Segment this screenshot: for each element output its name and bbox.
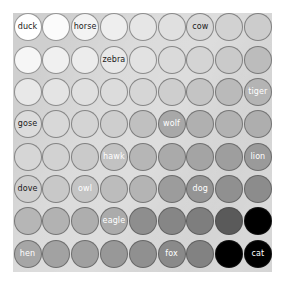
grid-circle-r1-c5	[129, 13, 157, 41]
grid-circle-r8-c8	[215, 240, 243, 268]
grid-circle-cat: cat	[244, 240, 272, 268]
grid-circle-dog: dog	[186, 175, 214, 203]
grid-circle-r5-c1	[14, 143, 42, 171]
grid-circle-zebra: zebra	[100, 46, 128, 74]
circle-label-fox: fox	[165, 250, 178, 258]
grid-circle-r2-c8	[215, 46, 243, 74]
grid-circle-tiger: tiger	[244, 78, 272, 106]
grid-circle-r3-c1	[14, 78, 42, 106]
grid-circle-r6-c9	[244, 175, 272, 203]
circle-label-dog: dog	[193, 185, 208, 193]
grid-circle-r3-c8	[215, 78, 243, 106]
circle-label-hawk: hawk	[103, 153, 125, 161]
grid-circle-r4-c9	[244, 110, 272, 138]
grid-circle-r4-c2	[42, 110, 70, 138]
grid-circle-r3-c3	[71, 78, 99, 106]
grid-circle-r5-c3	[71, 143, 99, 171]
grid-circle-r5-c5	[129, 143, 157, 171]
grid-circle-lion: lion	[244, 143, 272, 171]
grid-circle-r8-c7	[186, 240, 214, 268]
grid-circle-r7-c8	[215, 207, 243, 235]
grid-circle-hawk: hawk	[100, 143, 128, 171]
grid-circle-dove: dove	[14, 175, 42, 203]
grid-circle-r3-c4	[100, 78, 128, 106]
circle-label-gose: gose	[18, 120, 37, 128]
grid-circle-wolf: wolf	[158, 110, 186, 138]
grid-circle-r1-c4	[100, 13, 128, 41]
grid-circle-r3-c2	[42, 78, 70, 106]
grid-circle-r1-c8	[215, 13, 243, 41]
grid-circle-r8-c5	[129, 240, 157, 268]
circle-label-zebra: zebra	[102, 56, 125, 64]
grid-circle-r7-c6	[158, 207, 186, 235]
grid-circle-r1-c9	[244, 13, 272, 41]
circle-label-cow: cow	[192, 23, 208, 31]
grid-circle-r8-c4	[100, 240, 128, 268]
grid-circle-r3-c7	[186, 78, 214, 106]
circle-label-horse: horse	[74, 23, 97, 31]
grid-circle-r6-c4	[100, 175, 128, 203]
grid-circle-r8-c2	[42, 240, 70, 268]
grid-circle-r4-c5	[129, 110, 157, 138]
grid-circle-r2-c7	[186, 46, 214, 74]
figure-canvas: duckhorsecowzebratigergosewolfhawkliondo…	[0, 0, 287, 283]
grid-circle-r8-c3	[71, 240, 99, 268]
circle-label-eagle: eagle	[103, 217, 126, 225]
circle-label-hen: hen	[20, 250, 35, 258]
grid-circle-duck: duck	[14, 13, 42, 41]
grid-circle-fox: fox	[158, 240, 186, 268]
grid-circle-r2-c2	[42, 46, 70, 74]
grid-circle-r5-c7	[186, 143, 214, 171]
grid-circle-r5-c2	[42, 143, 70, 171]
grid-circle-r7-c9	[244, 207, 272, 235]
grid-circle-r2-c5	[129, 46, 157, 74]
grid-circle-r6-c6	[158, 175, 186, 203]
grid-circle-eagle: eagle	[100, 207, 128, 235]
circle-label-cat: cat	[252, 250, 265, 258]
grid-circle-r3-c5	[129, 78, 157, 106]
circle-label-lion: lion	[250, 153, 265, 161]
grid-circle-r7-c2	[42, 207, 70, 235]
grid-circle-r2-c3	[71, 46, 99, 74]
grid-circle-horse: horse	[71, 13, 99, 41]
grid-circle-r7-c1	[14, 207, 42, 235]
grid-circle-r4-c7	[186, 110, 214, 138]
grid-circle-r7-c3	[71, 207, 99, 235]
grid-circle-r6-c2	[42, 175, 70, 203]
grid-circle-r6-c8	[215, 175, 243, 203]
grid-circle-r1-c2	[42, 13, 70, 41]
plot-panel: duckhorsecowzebratigergosewolfhawkliondo…	[13, 13, 272, 272]
circle-label-tiger: tiger	[248, 88, 267, 96]
grid-circle-owl: owl	[71, 175, 99, 203]
grid-circle-r5-c8	[215, 143, 243, 171]
grid-circle-r7-c5	[129, 207, 157, 235]
circle-label-duck: duck	[18, 23, 38, 31]
grid-circle-r4-c3	[71, 110, 99, 138]
circle-label-dove: dove	[17, 185, 37, 193]
grid-circle-r2-c9	[244, 46, 272, 74]
grid-circle-r4-c4	[100, 110, 128, 138]
grid-circle-r2-c6	[158, 46, 186, 74]
circle-label-owl: owl	[78, 185, 92, 193]
grid-circle-r6-c5	[129, 175, 157, 203]
grid-circle-r4-c8	[215, 110, 243, 138]
grid-circle-r3-c6	[158, 78, 186, 106]
grid-circle-r5-c6	[158, 143, 186, 171]
circle-grid: duckhorsecowzebratigergosewolfhawkliondo…	[13, 13, 272, 272]
grid-circle-hen: hen	[14, 240, 42, 268]
grid-circle-r1-c6	[158, 13, 186, 41]
circle-label-wolf: wolf	[163, 120, 180, 128]
grid-circle-gose: gose	[14, 110, 42, 138]
grid-circle-r2-c1	[14, 46, 42, 74]
grid-circle-r7-c7	[186, 207, 214, 235]
grid-circle-cow: cow	[186, 13, 214, 41]
